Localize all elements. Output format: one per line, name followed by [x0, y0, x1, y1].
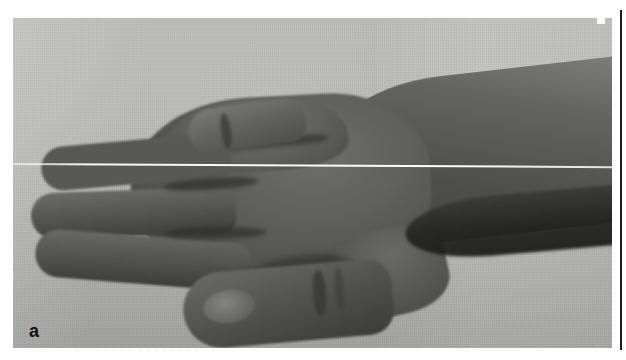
figure-page: a — [0, 0, 626, 360]
figure-panel-a: a — [13, 18, 612, 348]
clinical-photograph — [13, 18, 612, 348]
corner-notch-artifact — [597, 18, 605, 24]
page-gutter — [612, 0, 620, 360]
panel-letter-a: a — [29, 322, 39, 340]
adjacent-panel-edge — [620, 10, 622, 350]
